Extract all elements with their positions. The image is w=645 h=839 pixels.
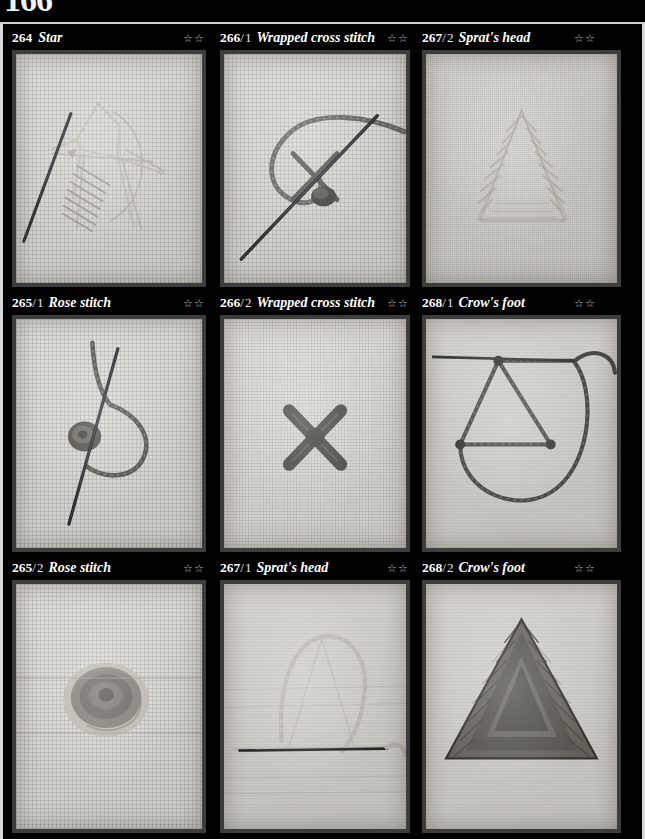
photo-frame-266-2 (220, 315, 410, 552)
caption-number: 265 (12, 560, 32, 576)
caption-separator: / (240, 30, 244, 46)
caption-name: Sprat's head (256, 560, 328, 576)
caption-number: 267 (220, 560, 240, 576)
rating-stars: ☆☆ (183, 563, 211, 574)
caption-variant: 2 (245, 295, 252, 311)
caption-name: Star (38, 30, 62, 46)
caption-variant: 2 (447, 560, 454, 576)
caption-number: 264 (12, 30, 32, 46)
stitch-cell-265-2[interactable]: 265/2 Rose stitch ☆☆ (12, 556, 211, 839)
caption-separator: / (442, 30, 446, 46)
caption-265-2: 265/2 Rose stitch ☆☆ (12, 556, 211, 580)
star-stitch-illustration (16, 54, 202, 283)
stitch-cell-266-1[interactable]: 266/1 Wrapped cross stitch ☆☆ (220, 26, 413, 291)
caption-268-2: 268/2 Crow's foot ☆☆ (422, 556, 626, 580)
caption-267-2: 267/2 Sprat's head ☆☆ (422, 26, 626, 50)
photo-plate: 264 Star ☆☆ (0, 24, 645, 839)
stitch-photo-268-1 (426, 319, 617, 548)
photo-frame-268-2 (422, 580, 621, 833)
caption-name: Crow's foot (458, 560, 525, 576)
caption-variant: 2 (447, 30, 454, 46)
rating-stars: ☆☆ (183, 33, 211, 44)
caption-name: Wrapped cross stitch (256, 295, 375, 311)
photo-frame-265-1 (12, 315, 206, 552)
stitch-cell-267-2[interactable]: 267/2 Sprat's head ☆☆ (422, 26, 626, 291)
caption-variant: 2 (37, 560, 44, 576)
caption-264: 264 Star ☆☆ (12, 26, 211, 50)
caption-separator: / (442, 295, 446, 311)
photo-frame-265-2 (12, 580, 206, 833)
wrapped-cross-stitch-finished-illustration (224, 319, 406, 548)
caption-266-1: 266/1 Wrapped cross stitch ☆☆ (220, 26, 413, 50)
photo-frame-267-1 (220, 580, 410, 833)
rose-stitch-finished-illustration (16, 584, 202, 829)
caption-name: Wrapped cross stitch (256, 30, 375, 46)
rating-stars: ☆☆ (387, 33, 413, 44)
rating-stars: ☆☆ (574, 33, 626, 44)
stitch-cell-265-1[interactable]: 265/1 Rose stitch ☆☆ (12, 291, 211, 556)
caption-267-1: 267/1 Sprat's head ☆☆ (220, 556, 413, 580)
photo-frame-267-2 (422, 50, 621, 287)
caption-variant: 1 (447, 295, 454, 311)
caption-separator: / (240, 295, 244, 311)
caption-number: 266 (220, 30, 240, 46)
rating-stars: ☆☆ (183, 298, 211, 309)
stitch-photo-267-1 (224, 584, 406, 829)
caption-number: 266 (220, 295, 240, 311)
rating-stars: ☆☆ (574, 298, 626, 309)
caption-separator: / (32, 560, 36, 576)
page-header: 166 (0, 0, 645, 26)
caption-number: 268 (422, 560, 442, 576)
caption-variant: 1 (37, 295, 44, 311)
photo-frame-266-1 (220, 50, 410, 287)
stitch-photo-267-2 (426, 54, 617, 283)
sprats-head-start-illustration (224, 584, 406, 829)
caption-variant: 1 (245, 560, 252, 576)
photo-frame-264 (12, 50, 206, 287)
caption-number: 268 (422, 295, 442, 311)
stitch-cell-266-2[interactable]: 266/2 Wrapped cross stitch ☆☆ (220, 291, 413, 556)
photo-frame-268-1 (422, 315, 621, 552)
sprats-head-illustration (426, 54, 617, 283)
caption-separator: / (32, 295, 36, 311)
page-number: 166 (4, 0, 52, 17)
crows-foot-finished-illustration (426, 584, 617, 829)
caption-number: 265 (12, 295, 32, 311)
caption-name: Crow's foot (458, 295, 525, 311)
stitch-cell-268-2[interactable]: 268/2 Crow's foot ☆☆ (422, 556, 626, 839)
stitch-cell-264[interactable]: 264 Star ☆☆ (12, 26, 211, 291)
caption-266-2: 266/2 Wrapped cross stitch ☆☆ (220, 291, 413, 315)
stitch-cell-267-1[interactable]: 267/1 Sprat's head ☆☆ (220, 556, 413, 839)
stitch-photo-265-1 (16, 319, 202, 548)
caption-separator: / (240, 560, 244, 576)
caption-name: Rose stitch (48, 560, 111, 576)
caption-268-1: 268/1 Crow's foot ☆☆ (422, 291, 626, 315)
rating-stars: ☆☆ (387, 563, 413, 574)
wrapped-cross-stitch-illustration (224, 54, 406, 283)
caption-separator: / (442, 560, 446, 576)
caption-265-1: 265/1 Rose stitch ☆☆ (12, 291, 211, 315)
stitch-grid: 264 Star ☆☆ (6, 26, 645, 839)
caption-number: 267 (422, 30, 442, 46)
rating-stars: ☆☆ (387, 298, 413, 309)
stitch-photo-268-2 (426, 584, 617, 829)
stitch-photo-265-2 (16, 584, 202, 829)
stitch-cell-268-1[interactable]: 268/1 Crow's foot ☆☆ (422, 291, 626, 556)
stitch-photo-266-2 (224, 319, 406, 548)
caption-name: Sprat's head (458, 30, 530, 46)
stitch-photo-264 (16, 54, 202, 283)
rose-stitch-start-illustration (16, 319, 202, 548)
rating-stars: ☆☆ (574, 563, 626, 574)
caption-variant: 1 (245, 30, 252, 46)
crows-foot-illustration (426, 319, 617, 548)
stitch-photo-266-1 (224, 54, 406, 283)
caption-name: Rose stitch (48, 295, 111, 311)
